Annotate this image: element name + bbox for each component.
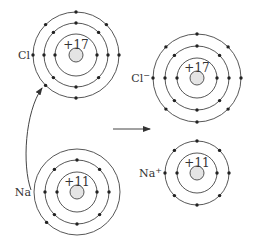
electron	[173, 149, 176, 152]
electron	[215, 76, 218, 79]
electron	[195, 44, 198, 47]
electron	[218, 54, 221, 57]
electron	[74, 96, 77, 99]
electron	[173, 54, 176, 57]
atom-na-ion: +11Na+	[139, 139, 231, 206]
electron	[97, 76, 100, 79]
electron	[227, 76, 230, 79]
electron	[107, 190, 110, 193]
atom-cl-ion: +17Cl−	[131, 32, 242, 123]
electron	[195, 108, 198, 111]
electron	[74, 85, 77, 88]
electron	[239, 76, 242, 79]
electron	[218, 99, 221, 102]
nucleus-charge: +17	[63, 38, 88, 52]
electron	[74, 21, 77, 24]
electron	[31, 53, 34, 56]
electron	[98, 168, 101, 171]
atom-label: Na	[15, 186, 32, 199]
electron	[75, 158, 78, 161]
electron	[173, 99, 176, 102]
ionic-bond-diagram: +17Cl+11Na+17Cl−+11Na+	[0, 0, 258, 246]
electron	[44, 84, 47, 87]
electron	[163, 171, 166, 174]
atom-label: Cl−	[131, 71, 150, 85]
electron	[43, 190, 46, 193]
electron	[53, 213, 56, 216]
atom-label: Cl	[18, 49, 30, 62]
electron	[164, 107, 167, 110]
electron	[195, 203, 198, 206]
electron	[195, 32, 198, 35]
electron	[117, 53, 120, 56]
electron	[105, 23, 108, 26]
electron	[97, 31, 100, 34]
electron	[151, 76, 154, 79]
electron	[226, 107, 229, 110]
electron	[42, 53, 45, 56]
electron	[173, 194, 176, 197]
electron	[53, 168, 56, 171]
electron	[175, 171, 178, 174]
electron	[52, 31, 55, 34]
electron	[106, 53, 109, 56]
electron	[44, 23, 47, 26]
electron	[45, 221, 48, 224]
diagram-canvas: +17Cl+11Na+17Cl−+11Na+	[0, 0, 258, 246]
electron	[53, 53, 56, 56]
electron	[75, 222, 78, 225]
electron	[175, 76, 178, 79]
electron	[195, 120, 198, 123]
electron	[218, 149, 221, 152]
atom-cl: +17Cl	[18, 10, 121, 99]
electron-transfer-arrow	[26, 88, 42, 190]
atom-label: Na+	[139, 166, 162, 180]
electron	[227, 171, 230, 174]
electron	[95, 190, 98, 193]
electron	[226, 45, 229, 48]
electron	[195, 139, 198, 142]
atom-na: +11Na	[15, 149, 120, 235]
nucleus-charge: +11	[184, 156, 209, 170]
electron	[52, 76, 55, 79]
electron	[55, 190, 58, 193]
electron	[163, 76, 166, 79]
electron	[215, 171, 218, 174]
electron	[95, 53, 98, 56]
nucleus-charge: +17	[184, 61, 209, 75]
electron	[98, 213, 101, 216]
electron	[164, 45, 167, 48]
electron	[218, 194, 221, 197]
nucleus-charge: +11	[64, 175, 89, 189]
electron	[74, 10, 77, 13]
